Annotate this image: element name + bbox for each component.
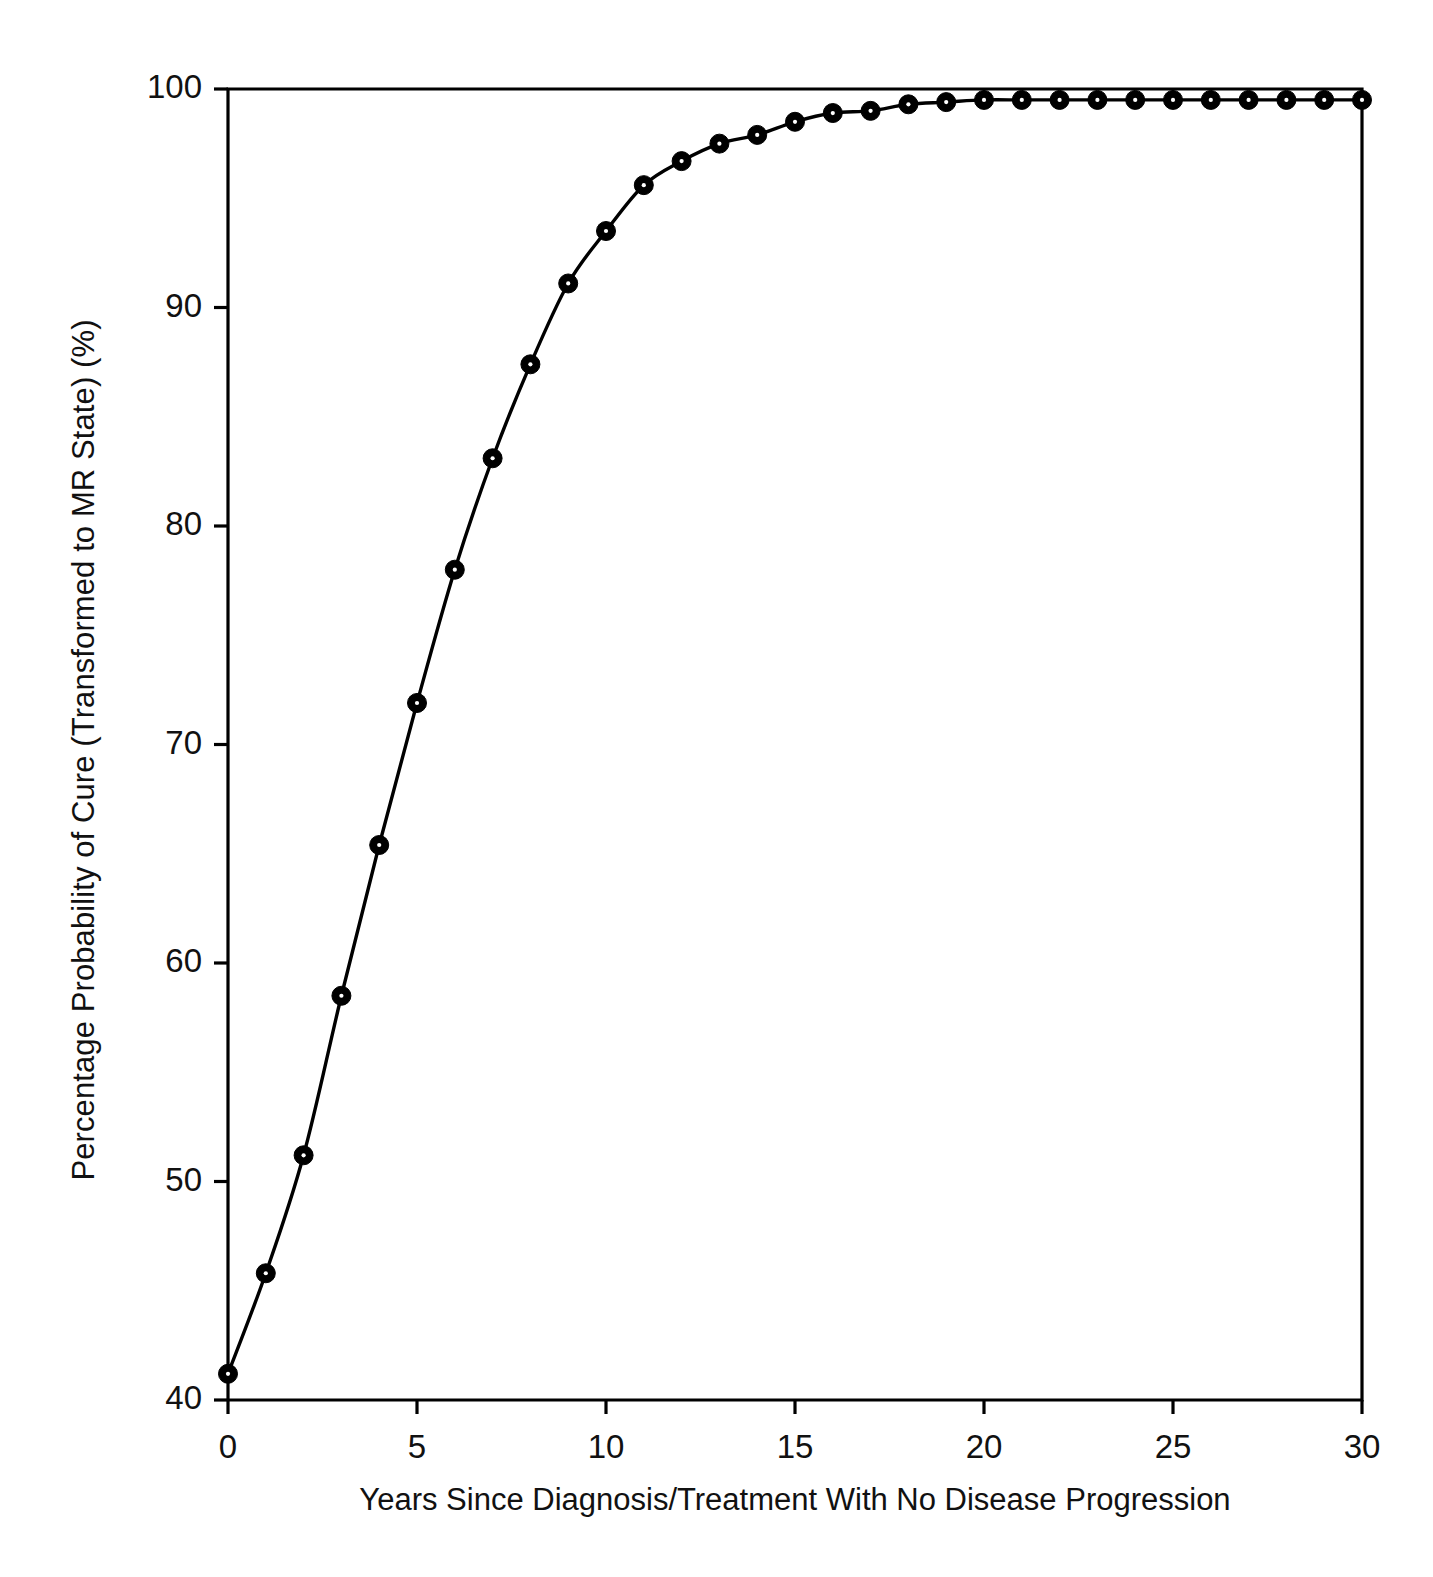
chart-canvas (0, 0, 1433, 1577)
data-point-center (717, 142, 721, 146)
data-line (228, 100, 1362, 1374)
data-point-center (491, 456, 495, 460)
data-point-center (1020, 98, 1024, 102)
data-point-center (528, 362, 532, 366)
data-point-center (642, 183, 646, 187)
data-point-center (793, 120, 797, 124)
axis-ticks (214, 89, 1362, 1414)
data-point-center (680, 159, 684, 163)
chart-figure: Percentage Probability of Cure (Transfor… (0, 0, 1433, 1577)
data-point-center (906, 102, 910, 106)
data-point-center (377, 843, 381, 847)
data-point-center (1247, 98, 1251, 102)
data-markers (219, 90, 1372, 1383)
data-point-center (226, 1372, 230, 1376)
plot-area: 405060708090100051015202530 (0, 0, 1433, 1577)
data-point-center (1133, 98, 1137, 102)
data-point-center (1322, 98, 1326, 102)
data-point-center (264, 1271, 268, 1275)
data-point-center (453, 568, 457, 572)
data-point-center (1360, 98, 1364, 102)
data-point-center (1095, 98, 1099, 102)
data-point-center (944, 100, 948, 104)
data-point-center (415, 701, 419, 705)
data-point-center (566, 281, 570, 285)
axis-frame (228, 89, 1362, 1400)
x-axis-title: Years Since Diagnosis/Treatment With No … (228, 1482, 1362, 1518)
data-point-center (302, 1153, 306, 1157)
data-point-center (1284, 98, 1288, 102)
data-point-center (869, 109, 873, 113)
data-point-center (604, 229, 608, 233)
plot-border (228, 89, 1362, 1400)
data-point-center (982, 98, 986, 102)
data-point-center (1209, 98, 1213, 102)
data-point-center (831, 111, 835, 115)
data-point-center (1171, 98, 1175, 102)
data-point-center (755, 133, 759, 137)
data-point-center (1058, 98, 1062, 102)
data-point-center (339, 994, 343, 998)
